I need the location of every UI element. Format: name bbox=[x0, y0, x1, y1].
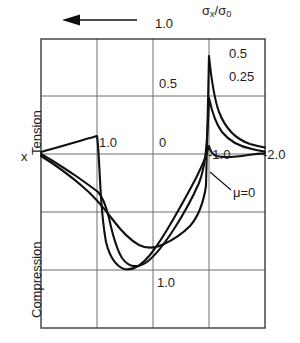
curve-label-0-5: 0.5 bbox=[229, 47, 247, 60]
tick-neg-one: -1.0 bbox=[208, 148, 230, 161]
mu-zero-leader-line bbox=[210, 172, 231, 190]
direction-arrow-icon bbox=[62, 15, 137, 26]
axis-label-compression: Compression bbox=[30, 241, 43, 318]
tick-bottom-center: 1.0 bbox=[157, 276, 175, 289]
annotation-mu-zero: μ=0 bbox=[233, 186, 255, 199]
title-sigma-x: σx bbox=[202, 3, 215, 18]
curve-label-0-25: 0.25 bbox=[229, 70, 254, 83]
tick-top-center: 1.0 bbox=[155, 17, 173, 30]
tick-neg-two: -2.0 bbox=[263, 148, 285, 161]
curve-label-left: 1.0 bbox=[99, 136, 117, 149]
tick-mid-upper: 0.5 bbox=[159, 77, 177, 90]
stress-distribution-figure: σx/σ0 1.0 0.5 0 1.0 1.0 0.5 0.25 -1.0 -2… bbox=[0, 0, 300, 343]
chart-title: σx/σ0 bbox=[202, 4, 231, 19]
title-sigma-0: σ0 bbox=[218, 3, 231, 18]
axis-label-tension: Tension bbox=[30, 110, 43, 155]
chart-canvas bbox=[0, 0, 300, 343]
origin-label-x: x bbox=[21, 150, 28, 163]
tick-zero: 0 bbox=[159, 136, 166, 149]
